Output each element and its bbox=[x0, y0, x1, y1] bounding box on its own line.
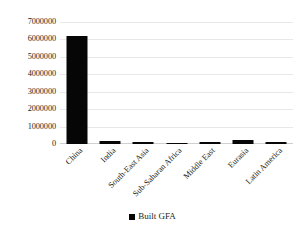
bar-slot bbox=[260, 22, 293, 144]
bar-latin-america bbox=[266, 142, 287, 145]
x-label-slot: China bbox=[60, 146, 93, 204]
y-tick-label: 3000000 bbox=[4, 88, 56, 96]
x-axis-tick-labels: China India South-East Asia Sub-Saharan … bbox=[60, 146, 293, 204]
chart-legend: Built GFA bbox=[0, 212, 305, 221]
x-label-slot: Middle East bbox=[193, 146, 226, 204]
y-tick-label: 6000000 bbox=[4, 35, 56, 43]
bar-slot bbox=[127, 22, 160, 144]
y-tick-label: 2000000 bbox=[4, 105, 56, 113]
bar-middle-east bbox=[199, 142, 220, 144]
x-tick-label-eurasia: Eurasia bbox=[226, 146, 250, 170]
y-tick-label: 7000000 bbox=[4, 18, 56, 26]
y-tick-label: 0 bbox=[4, 140, 56, 148]
x-tick-label-india: India bbox=[99, 146, 117, 164]
bar-slot bbox=[160, 22, 193, 144]
bar-south-east-asia bbox=[133, 142, 154, 144]
bar-slot bbox=[93, 22, 126, 144]
plot-area bbox=[60, 22, 293, 144]
bar-sub-saharan-africa bbox=[166, 143, 187, 144]
x-label-slot: Latin America bbox=[260, 146, 293, 204]
y-tick-label: 4000000 bbox=[4, 70, 56, 78]
bar-chart: 7000000 6000000 5000000 4000000 3000000 … bbox=[0, 0, 305, 243]
y-tick-label: 5000000 bbox=[4, 53, 56, 61]
bar-slot bbox=[60, 22, 93, 144]
legend-swatch-icon bbox=[129, 214, 135, 220]
bar-india bbox=[99, 141, 120, 144]
bars-layer bbox=[60, 22, 293, 144]
bar-china bbox=[66, 36, 87, 144]
bar-eurasia bbox=[233, 140, 254, 144]
x-tick-label-china: China bbox=[64, 146, 84, 166]
legend-label-built-gfa: Built GFA bbox=[138, 212, 176, 221]
bar-slot bbox=[193, 22, 226, 144]
y-tick-label: 1000000 bbox=[4, 123, 56, 131]
bar-slot bbox=[226, 22, 259, 144]
